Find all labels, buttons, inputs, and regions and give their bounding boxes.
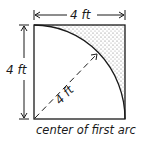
left-dimension-label: 4 ft: [6, 63, 28, 77]
caption: center of first arc: [36, 123, 136, 137]
top-dimension-label: 4 ft: [70, 8, 92, 22]
diagram-canvas: 4 ft 4 ft 4 ft center of first arc: [0, 0, 159, 141]
radius-label: 4 ft: [52, 82, 77, 107]
